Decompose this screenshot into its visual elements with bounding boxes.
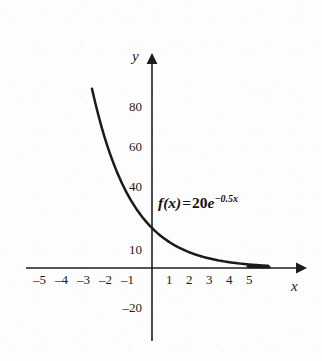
plot-canvas (0, 0, 322, 361)
y-axis-arrowhead (147, 53, 158, 64)
equation-function-notation: f(x) (158, 194, 181, 211)
x-tick-label-minus-1: –1 (121, 272, 134, 288)
x-tick-label-4: 4 (226, 272, 233, 288)
x-tick-label-minus-3: –3 (77, 272, 90, 288)
x-tick-label-minus-4: –4 (55, 272, 68, 288)
equation-coefficient: 20 (192, 194, 208, 211)
x-tick-label-3: 3 (206, 272, 213, 288)
x-tick-label-minus-2: –2 (99, 272, 112, 288)
x-axis-arrowhead (296, 262, 307, 273)
exponential-decay-figure: 80 60 40 10 –20 –5 –4 –3 –2 –1 1 2 3 4 5… (0, 0, 322, 361)
y-tick-label-10: 10 (118, 242, 142, 258)
function-equation: f(x)=20e−0.5x (158, 194, 238, 212)
y-tick-label-80: 80 (118, 99, 142, 115)
x-tick-label-5: 5 (246, 272, 253, 288)
y-tick-label-40: 40 (118, 179, 142, 195)
x-tick-label-minus-5: –5 (33, 272, 46, 288)
equation-equals-sign: = (181, 194, 192, 211)
x-tick-label-1: 1 (166, 272, 173, 288)
y-axis-label: y (132, 48, 139, 65)
y-tick-label-60: 60 (118, 139, 142, 155)
x-tick-label-2: 2 (186, 272, 193, 288)
x-axis-label: x (291, 278, 298, 295)
function-curve (92, 89, 268, 266)
equation-exponent: −0.5x (214, 193, 238, 204)
y-tick-label-minus-20: –20 (111, 300, 142, 316)
